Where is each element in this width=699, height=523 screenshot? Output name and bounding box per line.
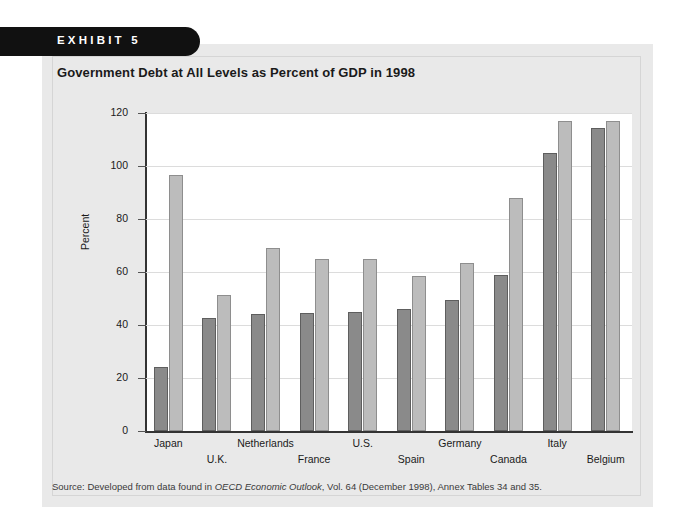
- bar-gross-debt: [315, 259, 329, 431]
- source-prefix: Source: Developed from data found in: [52, 481, 215, 492]
- x-axis-label: Canada: [464, 453, 554, 465]
- y-axis-tick: [138, 431, 146, 432]
- bar-gross-debt: [169, 175, 183, 431]
- x-axis-label: Germany: [415, 437, 505, 449]
- x-axis-label: Netherlands: [221, 437, 311, 449]
- y-axis-tick-label: 80: [94, 212, 128, 224]
- y-axis-tick-label: 60: [94, 265, 128, 277]
- exhibit-page: EXHIBIT 5 Government Debt at All Levels …: [0, 0, 699, 523]
- y-axis-tick: [138, 166, 146, 167]
- x-axis-label: Italy: [512, 437, 602, 449]
- bar-net-debt: [154, 367, 168, 431]
- y-axis-tick: [138, 113, 146, 114]
- bar-net-debt: [543, 153, 557, 431]
- x-axis-label: France: [269, 453, 359, 465]
- bar-net-debt: [300, 313, 314, 431]
- y-axis-tick-label: 100: [94, 159, 128, 171]
- x-axis-label: Japan: [123, 437, 213, 449]
- x-axis-label: Belgium: [561, 453, 651, 465]
- y-axis-tick: [138, 272, 146, 273]
- x-axis-label: U.K.: [172, 453, 262, 465]
- bar-gross-debt: [460, 263, 474, 431]
- exhibit-tab-label: EXHIBIT 5: [57, 34, 141, 46]
- bar-gross-debt: [363, 259, 377, 431]
- bar-net-debt: [445, 300, 459, 431]
- bar-gross-debt: [266, 248, 280, 431]
- page-title: Government Debt at All Levels as Percent…: [57, 65, 415, 80]
- bar-gross-debt: [558, 121, 572, 431]
- gridline: [146, 113, 632, 114]
- x-axis-label: Spain: [366, 453, 456, 465]
- source-italic: OECD Economic Outlook: [215, 481, 322, 492]
- chart-plot-area: [146, 113, 632, 431]
- x-axis-line: [145, 431, 633, 433]
- y-axis-tick: [138, 219, 146, 220]
- y-axis-tick-label: 0: [94, 424, 128, 436]
- bar-net-debt: [397, 309, 411, 431]
- bar-net-debt: [251, 314, 265, 431]
- bar-net-debt: [348, 312, 362, 431]
- y-axis-tick-label: 20: [94, 371, 128, 383]
- bar-net-debt: [494, 275, 508, 431]
- bar-gross-debt: [606, 121, 620, 431]
- source-suffix: , Vol. 64 (December 1998), Annex Tables …: [322, 481, 542, 492]
- y-axis-tick-label: 120: [94, 106, 128, 118]
- y-axis-tick: [138, 378, 146, 379]
- bar-gross-debt: [217, 295, 231, 431]
- bar-gross-debt: [509, 198, 523, 431]
- x-axis-label: U.S.: [318, 437, 408, 449]
- exhibit-tab: EXHIBIT 5: [0, 27, 200, 56]
- source-note: Source: Developed from data found in OEC…: [52, 481, 542, 492]
- y-axis-title: Percent: [79, 214, 91, 250]
- y-axis-tick-label: 40: [94, 318, 128, 330]
- bar-net-debt: [591, 128, 605, 431]
- y-axis-tick: [138, 325, 146, 326]
- bar-net-debt: [202, 318, 216, 431]
- bar-gross-debt: [412, 276, 426, 431]
